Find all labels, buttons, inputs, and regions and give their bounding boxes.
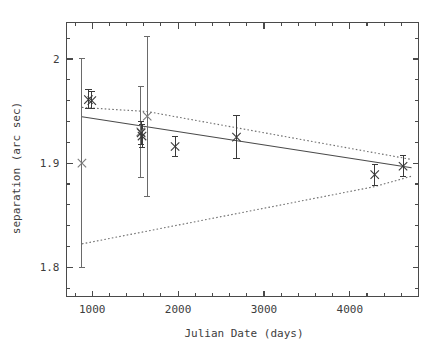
- x-tick-label: 2000: [165, 303, 192, 316]
- x-axis-ticks: [75, 23, 418, 297]
- x-tick-label: 3000: [251, 303, 278, 316]
- separation-vs-julian-date-plot: 1000200030004000 1.81.92 Julian Date (da…: [0, 0, 440, 345]
- data-markers: [78, 95, 407, 178]
- fit-line: [82, 117, 412, 168]
- y-tick-label: 1.9: [40, 157, 60, 170]
- x-axis-tick-labels: 1000200030004000: [79, 303, 363, 316]
- x-tick-label: 1000: [79, 303, 106, 316]
- x-tick-label: 4000: [337, 303, 364, 316]
- error-bars: [79, 36, 406, 267]
- y-tick-label: 1.8: [40, 261, 60, 274]
- chart-container: 1000200030004000 1.81.92 Julian Date (da…: [0, 0, 440, 345]
- y-tick-label: 2: [53, 53, 60, 66]
- confidence-bands: [82, 107, 412, 243]
- y-axis-ticks: [67, 38, 419, 288]
- confidence-band-line: [82, 176, 412, 244]
- plot-frame: [67, 23, 419, 297]
- y-axis-title: separation (arc sec): [10, 102, 23, 234]
- y-axis-tick-labels: 1.81.92: [40, 53, 60, 274]
- confidence-band-line: [82, 107, 412, 159]
- best-fit-line: [82, 117, 412, 168]
- x-axis-title: Julian Date (days): [184, 327, 303, 340]
